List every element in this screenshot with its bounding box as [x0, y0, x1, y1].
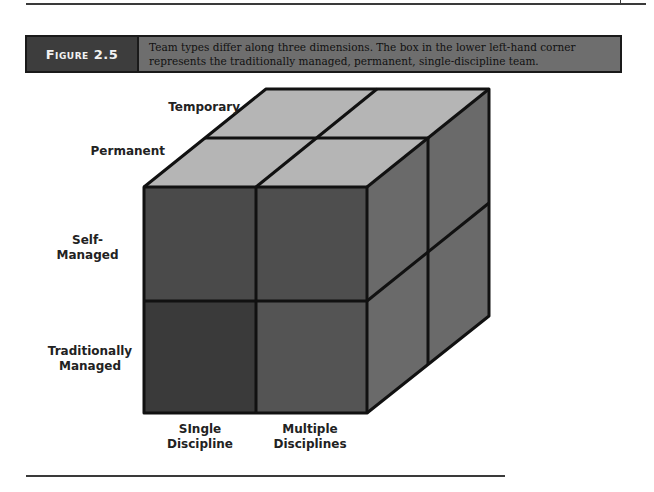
- cell-self-managed-multiple: [256, 187, 367, 301]
- bottom-rule: [26, 475, 505, 477]
- label-temporary: Temporary: [130, 100, 240, 115]
- label-single-discipline: SIngle Discipline: [155, 422, 245, 452]
- cell-self-managed-single: [144, 187, 256, 301]
- cell-traditional-single: [144, 301, 256, 413]
- label-multiple-disciplines: Multiple Disciplines: [250, 422, 370, 452]
- label-traditionally-managed: Traditionally Managed: [30, 344, 150, 374]
- cell-traditional-multiple: [256, 301, 367, 413]
- label-permanent: Permanent: [50, 144, 165, 159]
- label-self-managed: Self- Managed: [40, 233, 135, 263]
